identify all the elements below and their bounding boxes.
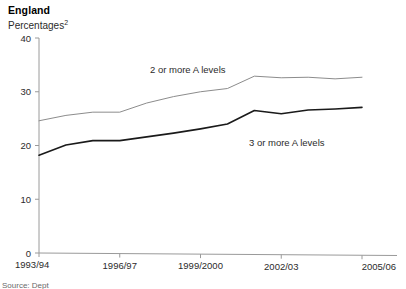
x-axis-ticks: 1993/941996/971999/20002002/032005/06 <box>15 253 396 272</box>
y-tick-label: 0 <box>26 248 31 259</box>
x-tick-label: 1993/94 <box>15 259 49 270</box>
chart-container: England Percentages2 010203040 1993/9419… <box>0 0 406 289</box>
y-tick-label: 30 <box>20 86 31 97</box>
x-tick-label: 1999/2000 <box>178 260 223 271</box>
x-tick-label: 2005/06 <box>362 261 396 272</box>
series-line <box>39 107 362 155</box>
x-axis-line <box>39 253 397 256</box>
y-tick-label: 20 <box>20 140 31 151</box>
series-annotations: 2 or more A levels3 or more A levels <box>150 64 325 148</box>
y-tick-label: 10 <box>20 194 31 205</box>
series-label: 2 or more A levels <box>150 64 226 75</box>
x-tick-label: 2002/03 <box>264 261 298 272</box>
line-chart-plot: 010203040 1993/941996/971999/20002002/03… <box>0 0 406 289</box>
x-tick-label: 1996/97 <box>103 260 137 271</box>
series-line <box>39 76 362 121</box>
series-label: 3 or more A levels <box>249 137 325 148</box>
y-tick-label: 40 <box>20 33 31 44</box>
source-note: Source: Dept <box>2 281 404 289</box>
y-axis-ticks: 010203040 <box>20 33 39 259</box>
